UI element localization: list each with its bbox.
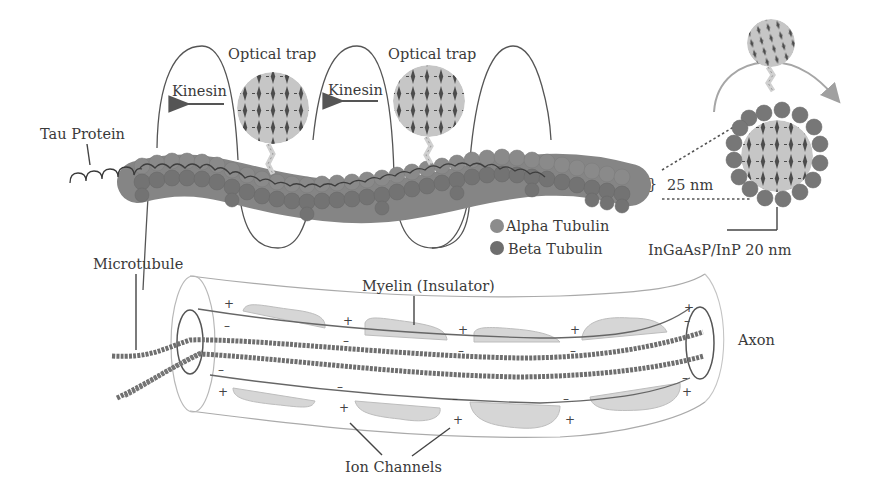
beta-tubulin-swatch	[490, 241, 504, 255]
ion-channels-label: Ion Channels	[345, 459, 442, 475]
svg-text:–: –	[458, 344, 464, 358]
optical-trap-bead-1	[237, 72, 309, 174]
svg-text:–: –	[343, 334, 349, 348]
svg-text:–: –	[684, 314, 690, 328]
rotation-arrow	[714, 62, 834, 112]
svg-text:+: +	[224, 297, 234, 311]
tau-protein-label: Tau Protein	[40, 126, 125, 142]
svg-text:+: +	[570, 323, 580, 337]
svg-text:+: +	[218, 385, 228, 399]
microtubule-axon-diagram: Tau Protein Optical trap Optical trap Ki…	[0, 0, 883, 502]
kinesin-label-2: Kinesin	[328, 82, 383, 98]
svg-text:+: +	[682, 385, 692, 399]
optical-trap-bead-2	[393, 65, 465, 164]
kinesin-label-1: Kinesin	[172, 83, 227, 99]
svg-text:+: +	[565, 413, 575, 427]
microtubule-filament	[134, 149, 630, 221]
svg-text:–: –	[452, 392, 458, 406]
svg-text:+: +	[458, 323, 468, 337]
svg-text:–: –	[224, 319, 230, 333]
svg-text:–: –	[563, 392, 569, 406]
svg-text:+: +	[343, 314, 353, 328]
legend-beta-tubulin: Beta Tubulin	[508, 241, 603, 257]
nanoparticle-label: InGaAsP/InP 20 nm	[648, 242, 792, 258]
microtubule-label: Microtubule	[93, 256, 183, 272]
svg-text:–: –	[682, 371, 688, 385]
brace-symbol: }	[648, 176, 657, 192]
svg-text:+: +	[684, 301, 694, 315]
legend: Alpha Tubulin Beta Tubulin	[490, 218, 609, 257]
svg-text:–: –	[218, 363, 224, 377]
svg-text:–: –	[337, 380, 343, 394]
optical-trap-label-1: Optical trap	[228, 46, 316, 62]
axon	[112, 274, 724, 437]
dimension-label: 25 nm	[667, 177, 713, 193]
myelin-label: Myelin (Insulator)	[362, 278, 495, 294]
small-bead	[747, 19, 795, 67]
axon-label: Axon	[737, 332, 775, 348]
svg-text:+: +	[453, 413, 463, 427]
svg-text:+: +	[339, 401, 349, 415]
alpha-tubulin-swatch	[490, 219, 504, 233]
legend-alpha-tubulin: Alpha Tubulin	[505, 218, 609, 234]
optical-trap-label-2: Optical trap	[388, 46, 476, 62]
svg-text:–: –	[570, 344, 576, 358]
